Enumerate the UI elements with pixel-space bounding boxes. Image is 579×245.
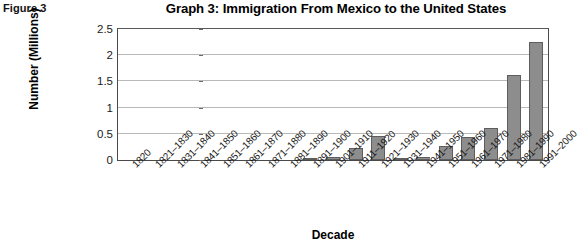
y-tick-label-2: 2 <box>107 49 113 61</box>
y-tick-label-2.5: 2.5 <box>97 23 113 35</box>
bar-slot <box>141 29 164 160</box>
y-tick-label-1: 1 <box>107 102 113 114</box>
y-tick-label-0.5: 0.5 <box>97 128 113 140</box>
bar-slot <box>119 29 142 160</box>
x-axis-title: Decade <box>117 228 549 242</box>
y-tick-label-1.5: 1.5 <box>97 75 113 87</box>
y-axis-ticks: 00.511.522.5 <box>86 20 113 170</box>
y-tick-label-0: 0 <box>107 154 113 166</box>
chart-title: Graph 3: Immigration From Mexico to the … <box>120 1 552 16</box>
y-axis-title: Number (Millions) <box>27 0 41 129</box>
x-axis-tick-labels: 18201821–18301831–18401841–18501851–1860… <box>119 162 548 232</box>
